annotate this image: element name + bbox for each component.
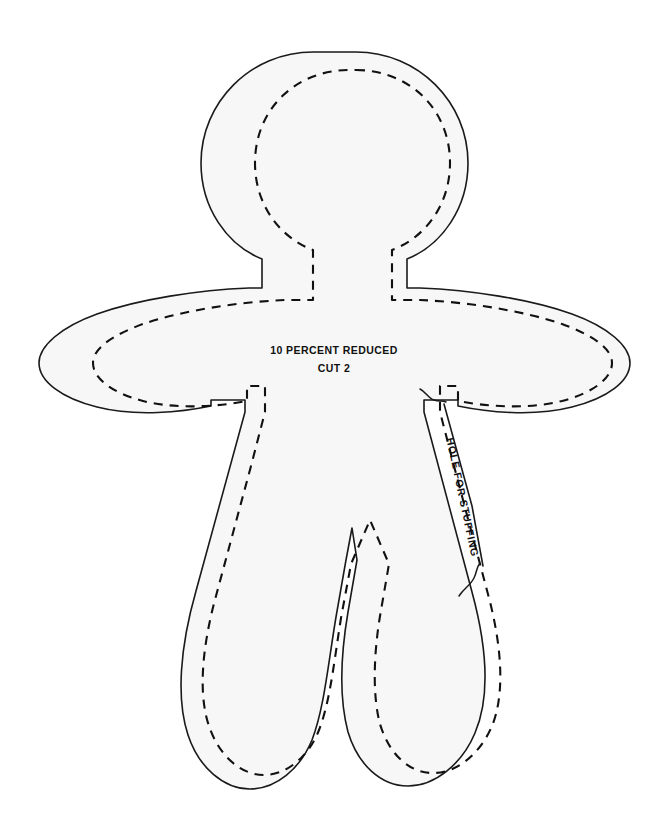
scale-note-text: 10 PERCENT REDUCED [270,344,398,356]
template-page: TEMPLATES—Fabric Painting DOLL 10 PERCEN… [0,0,667,839]
doll-shape-corrected [0,0,667,839]
doll-pattern-illustration: 10 PERCENT REDUCED CUT 2 HOLE FOR STUFFI… [0,0,667,839]
cut-note-text: CUT 2 [318,362,351,374]
